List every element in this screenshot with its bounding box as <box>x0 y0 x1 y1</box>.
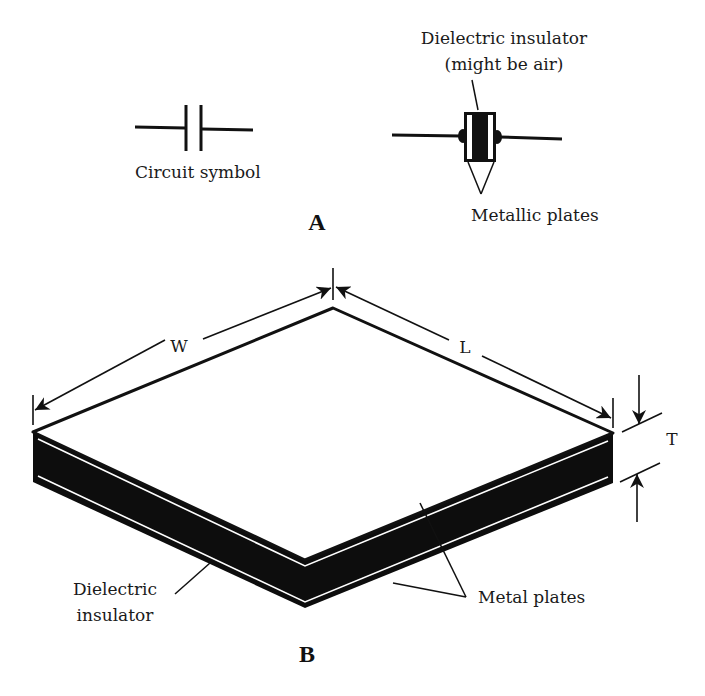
metallic-plates-caption: Metallic plates <box>471 205 599 225</box>
capacitor-diagram: Circuit symbol Dielectric insulator (mig… <box>0 0 705 696</box>
metal-plates-caption: Metal plates <box>478 587 585 607</box>
panel-a-label: A <box>308 209 326 235</box>
thickness-label: T <box>666 429 678 449</box>
length-label: L <box>459 337 470 357</box>
panel-b-label: B <box>299 641 315 667</box>
thickness-dimension <box>620 375 662 522</box>
capacitor-component-icon <box>392 80 562 194</box>
dielectric-caption-line1: Dielectric <box>73 579 157 599</box>
circuit-symbol-caption: Circuit symbol <box>135 162 261 182</box>
width-label: W <box>170 336 188 356</box>
panel-b: W L T Dielectric insulator Metal plates … <box>33 268 678 667</box>
insulator-caption-line2: (might be air) <box>445 54 564 74</box>
insulator-leader-line <box>175 563 210 594</box>
insulator-caption-line1: Dielectric insulator <box>421 28 588 48</box>
capacitor-circuit-symbol-icon <box>135 105 253 151</box>
dielectric-caption-line2: insulator <box>77 605 155 625</box>
panel-a: Circuit symbol Dielectric insulator (mig… <box>135 28 599 235</box>
capacitor-slab <box>33 308 613 608</box>
